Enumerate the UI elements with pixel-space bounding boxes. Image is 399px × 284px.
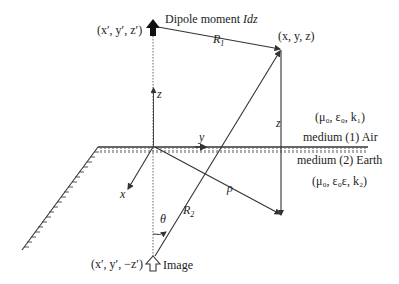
source-coords-label: (x′, y′, z′) [97,24,142,36]
image-coords-label: (x′, y′, −z′) [91,258,143,270]
medium1-name-label: medium (1) Air [303,131,378,143]
dipole-moment-label: Dipole moment Idz [165,13,258,25]
z-height-label: z [276,117,281,129]
medium2-params-label: (μ₀, ε₀ε, k₂) [312,175,367,187]
medium1-params-label: (μ₀, ε₀, k₁) [315,111,365,123]
x-axis-label: x [120,188,125,200]
z-axis-label: z [157,88,162,100]
medium2-name-label: medium (2) Earth [297,154,382,166]
image-arrow-icon [146,256,160,271]
theta-label: θ [160,213,166,225]
r2-label: R2 [183,204,194,219]
image-label: Image [163,259,193,271]
r2-vector [155,51,280,256]
dipole-arrow-icon [146,19,160,36]
rho-label: ρ [227,182,233,194]
r1-label: R1 [213,33,224,48]
dipole-diagram: (x′, y′, z′) Dipole moment Idz R1 (x, y,… [0,0,399,284]
x-axis [128,147,153,189]
rho-vector [155,147,280,214]
field-point-label: (x, y, z) [278,30,315,42]
theta-arc [153,232,166,235]
y-axis-label: y [199,131,204,143]
